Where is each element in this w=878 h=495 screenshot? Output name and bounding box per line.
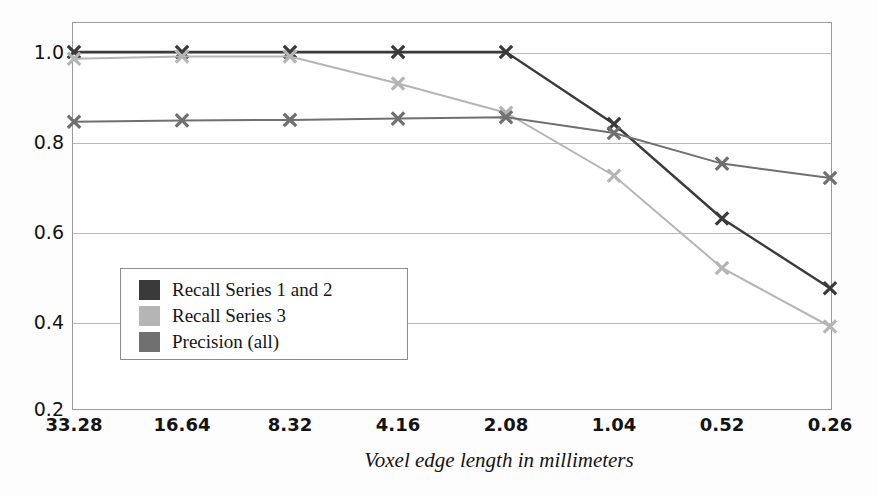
legend-item-label: Recall Series 3 [172,305,286,327]
y-tick-label: 0.8 [0,131,64,153]
y-tick-label: 1.0 [0,41,64,63]
chart-figure: 1.0 0.8 0.6 0.4 0.2 33.2816.648.324.162.… [0,0,878,495]
y-tick-label: 0.6 [0,221,64,243]
data-point-marker [716,262,728,274]
legend-item: Recall Series 3 [139,304,407,328]
x-tick-label: 33.28 [29,414,119,435]
data-point-marker [824,282,836,294]
x-tick-label: 8.32 [245,414,335,435]
data-point-marker [824,320,836,332]
legend-item-label: Precision (all) [172,331,279,353]
legend: Recall Series 1 and 2 Recall Series 3 Pr… [120,268,408,360]
y-tick-label: 0.4 [0,311,64,333]
data-point-marker [716,212,728,224]
x-tick-label: 1.04 [569,414,659,435]
legend-swatch-icon [139,332,160,352]
legend-item-label: Recall Series 1 and 2 [172,279,332,301]
x-tick-label: 16.64 [137,414,227,435]
x-tick-label: 0.52 [677,414,767,435]
data-point-marker [392,77,404,89]
x-tick-label: 0.26 [785,414,875,435]
legend-item: Precision (all) [139,330,407,354]
data-point-marker [608,170,620,182]
legend-swatch-icon [139,306,160,326]
x-tick-label: 4.16 [353,414,443,435]
x-axis-title: Voxel edge length in millimeters [0,448,878,473]
x-tick-label: 2.08 [461,414,551,435]
legend-swatch-icon [139,280,160,300]
legend-item: Recall Series 1 and 2 [139,278,407,302]
